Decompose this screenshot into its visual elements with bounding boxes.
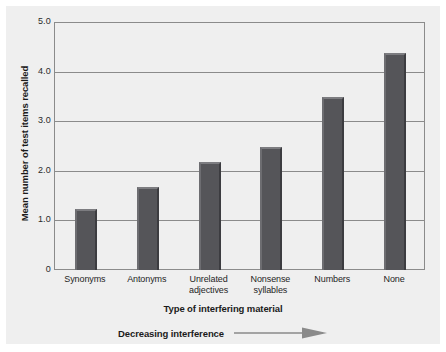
right-arrow-icon bbox=[234, 326, 328, 340]
bar-chart-figure: Mean number of test items recalled 5.04.… bbox=[0, 0, 446, 352]
y-tick-label: 0 bbox=[11, 264, 51, 274]
gridline bbox=[55, 121, 424, 122]
x-tick-label-line1: None bbox=[357, 274, 431, 285]
bar bbox=[322, 97, 344, 270]
annotation-label: Decreasing interference bbox=[118, 328, 224, 339]
y-tick-label: 5.0 bbox=[11, 16, 51, 26]
gridline bbox=[55, 220, 424, 221]
bar bbox=[75, 209, 97, 270]
y-tick-label: 2.0 bbox=[11, 165, 51, 175]
bar bbox=[137, 187, 159, 270]
x-tick-label: None bbox=[357, 274, 431, 285]
y-tick-label: 1.0 bbox=[11, 214, 51, 224]
bar bbox=[260, 147, 282, 270]
y-tick-label: 4.0 bbox=[11, 66, 51, 76]
decreasing-interference-annotation: Decreasing interference bbox=[0, 326, 446, 340]
gridline bbox=[55, 72, 424, 73]
bar bbox=[199, 162, 221, 270]
x-axis-title: Type of interfering material bbox=[0, 303, 446, 314]
plot-area bbox=[54, 22, 425, 270]
y-axis-title: Mean number of test items recalled bbox=[19, 54, 30, 234]
bar bbox=[384, 53, 406, 270]
x-tick-label-line2: syllables bbox=[233, 285, 307, 296]
gridline bbox=[55, 171, 424, 172]
y-tick-label: 3.0 bbox=[11, 115, 51, 125]
